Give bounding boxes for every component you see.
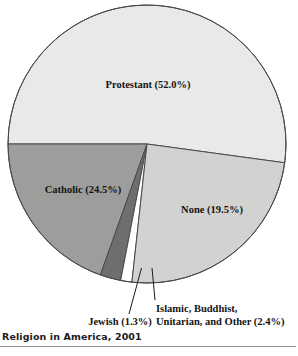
slice-label-none: None (19.5%): [181, 204, 243, 216]
caption-text: Religion in America, 2001: [0, 330, 298, 343]
callout-label-jewish: Jewish (1.3%): [88, 316, 152, 328]
callout-label-other-line2: Unitarian, and Other (2.4%): [156, 316, 285, 328]
figure-caption: Religion in America, 2001: [0, 330, 298, 347]
religion-pie-chart: Protestant (52.0%) Catholic (24.5%) None…: [0, 0, 298, 356]
callout-label-other-line1: Islamic, Buddhist,: [156, 303, 238, 314]
slice-label-catholic: Catholic (24.5%): [45, 184, 122, 196]
pie-chart-figure: Protestant (52.0%) Catholic (24.5%) None…: [0, 0, 298, 356]
caption-divider: [0, 346, 296, 347]
slice-label-protestant: Protestant (52.0%): [106, 79, 191, 91]
